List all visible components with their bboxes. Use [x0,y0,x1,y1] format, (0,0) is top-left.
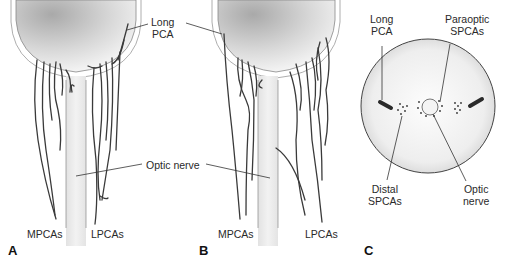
panel-b-illustration [212,0,340,246]
label-mpcas-a: MPCAs [27,228,63,240]
label-long: Long [151,16,174,28]
figure-canvas [0,0,510,259]
label-distal: Distal [368,183,402,195]
panel-letter-b: B [199,243,208,258]
globe-b [218,0,335,72]
label-optic: Optic [463,183,489,195]
label-pca: PCA [151,28,174,40]
panel-letter-c: C [364,243,373,258]
label-long-pca-ab: Long PCA [151,16,174,40]
label-optic-nerve-ab: Optic nerve [146,159,200,171]
label-distal-spcas: Distal SPCAs [368,183,402,207]
panel-letter-a: A [8,243,17,258]
label-spcas-distal: SPCAs [368,195,402,207]
label-long-pca-c: Long PCA [370,13,393,37]
label-spcas-paraoptic: SPCAs [445,25,489,37]
label-nerve: nerve [463,195,489,207]
optic-nerve-b [258,76,278,246]
label-paraoptic-spcas: Paraoptic SPCAs [445,13,489,37]
label-paraoptic: Paraoptic [445,13,489,25]
optic-nerve-head [422,99,438,115]
label-lpcas-a: LPCAs [91,228,124,240]
label-long-c: Long [370,13,393,25]
panel-a-illustration [11,0,141,246]
label-pca-c: PCA [370,25,393,37]
optic-nerve-a [66,76,86,246]
panel-c-illustration [361,39,495,181]
label-mpcas-b: MPCAs [218,228,254,240]
label-lpcas-b: LPCAs [305,228,338,240]
label-optic-nerve-c: Optic nerve [463,183,489,207]
globe-a [16,0,136,72]
